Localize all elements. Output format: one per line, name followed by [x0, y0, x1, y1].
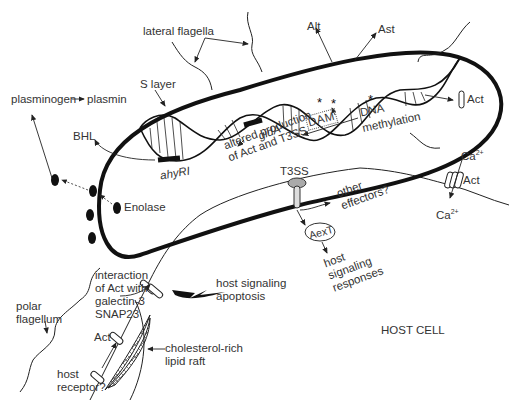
svg-text:*: *	[317, 95, 322, 110]
label-plasminogen: plasminogen	[11, 93, 76, 106]
label-host-rec: host	[57, 368, 79, 380]
label-t3ss: T3SS	[280, 165, 309, 178]
lateral-flagellum-1	[172, 42, 212, 90]
label-host-signaling: host signaling	[216, 277, 286, 289]
label-interaction: interaction of Act with galectin-3 SNAP2…	[95, 269, 148, 321]
label-interaction-line4: SNAP23	[95, 308, 139, 320]
label-receptor: receptor?	[57, 381, 106, 393]
label-apoptosis: apoptosis	[216, 290, 265, 302]
label-ca-top: Ca2+	[461, 146, 484, 163]
label-cholesterol-rich: cholesterol-rich	[165, 342, 243, 354]
label-bhl: BHL	[73, 130, 95, 143]
label-plasmin: plasmin	[87, 93, 127, 106]
ahyri-gene	[158, 158, 180, 160]
gida-gene	[244, 120, 262, 125]
label-act-raft: Act	[94, 331, 111, 344]
label-s-layer: S layer	[140, 78, 176, 91]
label-act-secreted: Act	[467, 93, 484, 106]
ca-text: Ca	[436, 209, 451, 221]
lateral-flagellum-2	[247, 12, 262, 72]
lateral-flagellum-4	[410, 133, 440, 148]
label-polar: polar	[16, 300, 42, 312]
label-lateral-flagella: lateral flagella	[143, 25, 214, 38]
aeromonas-virulence-diagram: *** late	[0, 0, 509, 406]
label-host-cell: HOST CELL	[381, 324, 445, 337]
ca-charge: 2+	[476, 149, 484, 156]
ca-text: Ca	[461, 150, 476, 162]
label-ast: Ast	[378, 23, 395, 36]
enolase-particles	[51, 174, 121, 244]
label-lipid-raft: lipid raft	[165, 355, 205, 367]
label-cholesterol-raft: cholesterol-rich lipid raft	[165, 342, 243, 368]
label-alt: Alt	[307, 20, 320, 33]
diagram-artwork: ***	[0, 0, 509, 406]
label-interaction-line2: of Act with	[95, 282, 147, 294]
ca-charge: 2+	[451, 208, 459, 215]
label-host-receptor: host receptor?	[57, 368, 106, 394]
label-ca-bottom: Ca2+	[436, 205, 459, 222]
t3ss-needle	[294, 186, 300, 208]
label-interaction-line1: interaction	[95, 269, 148, 281]
label-flagellum: flagellum	[16, 313, 62, 325]
label-enolase: Enolase	[124, 201, 166, 214]
label-interaction-line3: galectin-3	[95, 295, 145, 307]
lateral-flagellum-3	[418, 22, 470, 62]
label-host-signaling-apoptosis: host signaling apoptosis	[216, 277, 286, 303]
label-polar-flagellum: polar flagellum	[16, 300, 62, 326]
act-secreted-shape	[459, 91, 464, 108]
label-act-pore: Act	[463, 174, 480, 187]
